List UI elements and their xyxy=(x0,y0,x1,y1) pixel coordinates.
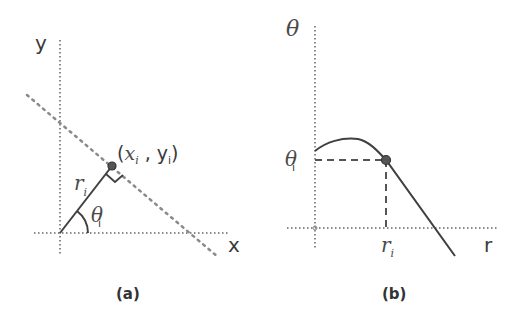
hough-transform-diagram: y x (xi , yi) ri θi (a) θ r θi xyxy=(0,0,521,318)
panel-a-y-label: y xyxy=(35,31,47,55)
panel-a-radius-label: ri xyxy=(74,171,87,199)
panel-a-angle-arc xyxy=(77,211,88,233)
panel-b-r-axis-label: r xyxy=(484,233,493,257)
panel-a-point xyxy=(108,162,116,170)
panel-b-caption: (b) xyxy=(382,285,406,303)
panel-a-x-label: x xyxy=(228,233,240,257)
panel-a-angle-label: θi xyxy=(91,203,103,230)
panel-b-theta-axis-label: θ xyxy=(286,16,299,41)
panel-a-point-label: (xi , yi) xyxy=(117,142,179,167)
panel-a: y x (xi , yi) ri θi (a) xyxy=(27,31,240,303)
panel-a-caption: (a) xyxy=(116,285,140,303)
panel-b: θ r θi ri (b) xyxy=(285,16,498,303)
panel-b-point xyxy=(382,156,391,165)
panel-b-r-tick-label: ri xyxy=(381,233,394,260)
panel-b-theta-tick-label: θi xyxy=(285,147,297,174)
panel-a-right-angle-marker xyxy=(106,174,123,182)
